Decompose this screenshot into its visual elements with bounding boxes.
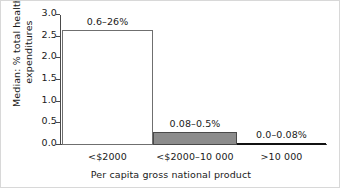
y-tick-6: 3.0 (60, 14, 61, 15)
y-tick-0: 0.0 (60, 144, 61, 145)
x-axis-title: Per capita gross national product (1, 169, 340, 180)
bar-chart-figure: Median: % total health expenditures 0.0 … (0, 0, 340, 188)
bar-category-1 (153, 132, 237, 145)
bar-value-label-2: 0.0–0.08% (237, 129, 326, 140)
bar-category-0 (62, 30, 153, 145)
y-tick-1: 0.5 (60, 122, 61, 123)
y-tick-label-6: 3.0 (42, 7, 57, 18)
y-axis-title: Median: % total health expenditures (6, 0, 40, 122)
y-tick-label-5: 2.5 (42, 29, 57, 40)
y-tick-label-1: 0.5 (42, 115, 57, 126)
x-tick-label-1: <$2000–10 000 (153, 151, 237, 162)
y-tick-label-2: 1.0 (42, 94, 57, 105)
y-axis-title-line-1: Median: % total health (11, 0, 24, 107)
y-tick-label-4: 2.0 (42, 50, 57, 61)
plot-area: 0.0 0.5 1.0 1.5 2.0 2.5 3.0 (60, 15, 327, 145)
bar-value-label-1: 0.08–0.5% (153, 118, 237, 129)
bar-category-2 (237, 143, 326, 146)
y-tick-label-0: 0.0 (42, 137, 57, 148)
y-tick-2: 1.0 (60, 101, 61, 102)
x-tick-label-2: >10 000 (237, 151, 326, 162)
x-tick-label-0: <$2000 (62, 151, 153, 162)
bar-value-label-0: 0.6–26% (62, 16, 153, 27)
y-tick-4: 2.0 (60, 57, 61, 58)
y-tick-5: 2.5 (60, 36, 61, 37)
y-tick-label-3: 1.5 (42, 72, 57, 83)
y-tick-3: 1.5 (60, 79, 61, 80)
y-axis-line (60, 15, 61, 145)
y-axis-title-line-2: expenditures (23, 20, 36, 83)
